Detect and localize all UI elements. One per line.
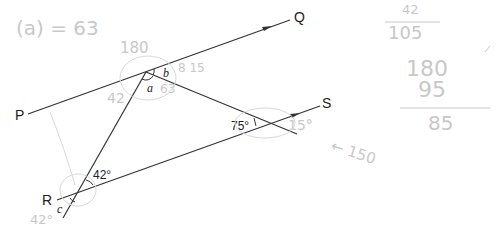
calc-85: 85 — [428, 111, 453, 135]
angle-label-a: a — [147, 81, 153, 95]
handwritten-15-deg: 15° — [288, 117, 313, 133]
angle-arc-42 — [86, 180, 93, 185]
transversal-left — [63, 72, 146, 218]
calc-42: 42 — [402, 2, 419, 17]
handwritten-arrow-150: ← 150 — [329, 137, 378, 168]
angle-arc-b — [153, 69, 154, 75]
scribble-curve-left — [50, 112, 75, 185]
point-label-q: Q — [294, 9, 305, 25]
geometry-diagram: P Q R S a b c 42° 75° (a) = 63 180 8 15 … — [0, 0, 501, 233]
handwritten-42-below: 42° — [30, 212, 53, 227]
angle-label-b: b — [163, 66, 169, 80]
angle-arc-75 — [254, 118, 256, 126]
handwritten-180-top: 180 — [120, 39, 149, 57]
calc-105: 105 — [388, 22, 422, 43]
handwritten-42-left: 42 — [107, 90, 125, 106]
angle-label-42: 42° — [93, 168, 111, 182]
arrow-icon-pq — [262, 26, 272, 31]
scribble-ellipse-r — [60, 174, 96, 206]
calc-95: 95 — [418, 77, 446, 102]
point-label-p: P — [15, 107, 24, 123]
line-rs — [57, 106, 320, 200]
point-label-s: S — [322, 95, 331, 111]
handwritten-a-equals: (a) = 63 — [16, 16, 99, 40]
point-label-r: R — [42, 192, 52, 208]
angle-label-c: c — [57, 202, 63, 216]
calc-tick — [485, 46, 490, 52]
handwritten-near-b: 8 15 — [178, 61, 205, 75]
